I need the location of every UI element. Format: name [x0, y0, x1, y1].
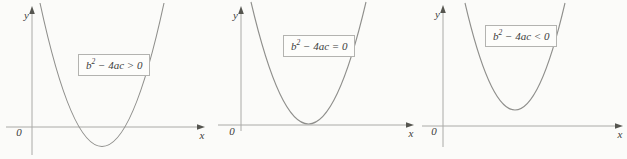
panel-discriminant-zero: y x 0 b2 − 4ac = 0	[209, 0, 418, 159]
axes-plot-zero: y x 0	[209, 0, 418, 159]
x-axis-label: x	[617, 128, 623, 140]
origin-label: 0	[16, 126, 22, 138]
parabola-curve	[465, 3, 565, 110]
x-axis-label: x	[199, 129, 205, 141]
discriminant-expression-rest: − 4ac > 0	[95, 59, 142, 71]
y-axis-arrow-icon	[238, 6, 244, 14]
y-axis-label: y	[232, 9, 238, 21]
axes-plot-positive: y x 0	[0, 0, 209, 159]
y-axis-label: y	[23, 9, 29, 21]
y-axis-arrow-icon	[440, 5, 446, 13]
origin-label: 0	[431, 125, 437, 137]
quadratic-discriminant-figure: y x 0 b2 − 4ac > 0 y x 0 b2 − 4ac = 0	[0, 0, 627, 159]
y-axis-label: y	[434, 8, 440, 20]
discriminant-label-box: b2 − 4ac = 0	[283, 35, 355, 57]
panel-discriminant-positive: y x 0 b2 − 4ac > 0	[0, 0, 209, 159]
axes-plot-negative: y x 0	[418, 0, 627, 159]
discriminant-expression-rest: − 4ac = 0	[300, 40, 347, 52]
panel-discriminant-negative: y x 0 b2 − 4ac < 0	[418, 0, 627, 159]
x-axis-label: x	[408, 127, 414, 139]
origin-label: 0	[229, 125, 235, 137]
discriminant-label-box: b2 − 4ac > 0	[78, 54, 150, 76]
parabola-curve	[251, 2, 366, 124]
discriminant-expression-rest: − 4ac < 0	[502, 30, 549, 42]
y-axis-arrow-icon	[29, 6, 35, 14]
discriminant-label-box: b2 − 4ac < 0	[485, 25, 557, 47]
